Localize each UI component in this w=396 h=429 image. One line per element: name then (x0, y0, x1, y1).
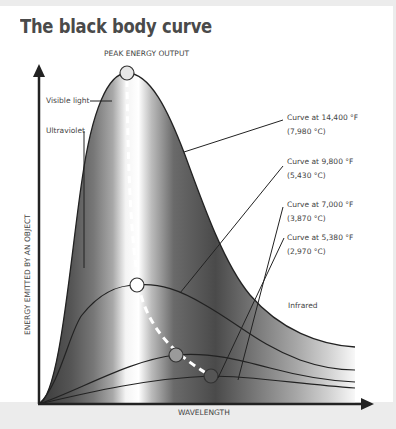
curve-7000-label-line1: Curve at 7,000 °F (287, 200, 353, 209)
peak-marker-14400 (120, 66, 134, 80)
curve-7000-label-line2: (3,870 °C) (287, 214, 326, 223)
visible-light-label: Visible light (46, 96, 90, 105)
curve-5380-label-line1: Curve at 5,380 °F (287, 233, 353, 242)
leader-14400 (184, 120, 283, 152)
peak-marker-9800 (130, 278, 144, 292)
peak-marker-5380 (204, 369, 218, 383)
curve-9800-label-line2: (5,430 °C) (287, 171, 326, 180)
infrared-label: Infrared (288, 301, 318, 310)
black-body-diagram: PEAK ENERGY OUTPUT Visible light Ultravi… (0, 0, 396, 429)
curve-14400-label-line1: Curve at 14,400 °F (287, 113, 358, 122)
peak-marker-7000 (169, 348, 183, 362)
curve-14400-label-line2: (7,980 °C) (287, 127, 326, 136)
curve-9800-label-line1: Curve at 9,800 °F (287, 157, 353, 166)
ultraviolet-label: Ultraviolet (46, 126, 85, 135)
y-axis-label: ENERGY EMITTED BY AN OBJECT (23, 214, 32, 335)
y-axis-arrow-icon (33, 64, 45, 77)
x-axis-arrow-icon (361, 398, 374, 410)
x-axis-label: WAVELENGTH (178, 408, 230, 417)
curve-5380-label-line2: (2,970 °C) (287, 247, 326, 256)
peak-energy-label: PEAK ENERGY OUTPUT (104, 49, 189, 58)
